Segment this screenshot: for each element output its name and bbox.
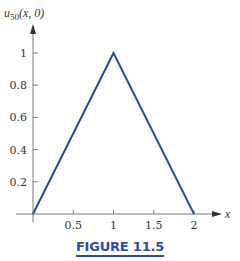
- y-axis-arrow-icon: [30, 24, 36, 34]
- x-tick-label: 1: [110, 219, 117, 232]
- x-tick-label: 0.5: [65, 219, 83, 232]
- y-tick-label: 0.2: [10, 176, 28, 189]
- y-tick-label: 0.8: [10, 79, 28, 92]
- x-axis-arrow-icon: [212, 211, 222, 217]
- x-tick-label: 2: [191, 219, 198, 232]
- y-tick-label: 1: [20, 47, 27, 60]
- y-tick-label: 0.4: [10, 144, 28, 157]
- data-series: [33, 53, 194, 214]
- x-axis-label: x: [224, 207, 231, 221]
- x-tick-label: 1.5: [145, 219, 163, 232]
- data-line: [33, 53, 194, 214]
- figure-caption-text: FIGURE 11.5: [76, 239, 164, 257]
- figure-caption: FIGURE 11.5: [0, 239, 240, 254]
- y-tick-label: 0.6: [10, 111, 28, 124]
- y-axis-label: u50(x, 0): [4, 6, 44, 22]
- chart-svg: 0.511.520.20.40.60.81 u50(x, 0) x: [0, 0, 240, 261]
- axes: [16, 24, 222, 222]
